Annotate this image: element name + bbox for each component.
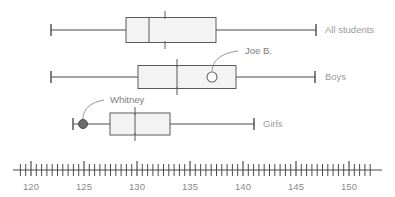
box-plot-chart: All students Boys Joe B. xyxy=(0,0,395,197)
boxplot-series-all-students: All students xyxy=(51,11,374,49)
data-point-joe-b xyxy=(207,72,217,82)
axis-tick-label-120: 120 xyxy=(23,181,39,192)
annotation-label-joe-b: Joe B. xyxy=(245,45,272,56)
axis-tick-label-135: 135 xyxy=(182,181,198,192)
series-label-boys: Boys xyxy=(325,71,346,82)
box-boys xyxy=(138,66,236,89)
axis-ticks xyxy=(20,161,370,176)
boxplot-series-boys: Boys xyxy=(51,59,346,95)
x-axis: 120 125 130 135 140 145 150 xyxy=(13,161,382,192)
axis-tick-label-125: 125 xyxy=(76,181,92,192)
axis-tick-label-140: 140 xyxy=(235,181,251,192)
boxplot-series-girls: Girls xyxy=(73,107,283,141)
data-point-whitney xyxy=(79,120,88,129)
box-girls xyxy=(110,113,170,135)
axis-tick-label-150: 150 xyxy=(341,181,357,192)
box-all-students xyxy=(126,18,216,43)
axis-tick-label-145: 145 xyxy=(288,181,304,192)
series-label-girls: Girls xyxy=(263,118,283,129)
series-label-all-students: All students xyxy=(325,24,374,35)
leader-line-whitney xyxy=(83,100,104,119)
box-plot-svg: All students Boys Joe B. xyxy=(0,0,395,197)
annotation-label-whitney: Whitney xyxy=(110,94,145,105)
axis-tick-label-130: 130 xyxy=(129,181,145,192)
